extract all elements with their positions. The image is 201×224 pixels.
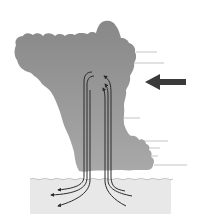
water-surface bbox=[30, 178, 173, 214]
large-left-arrow bbox=[145, 74, 186, 90]
downburst-diagram bbox=[0, 0, 201, 224]
